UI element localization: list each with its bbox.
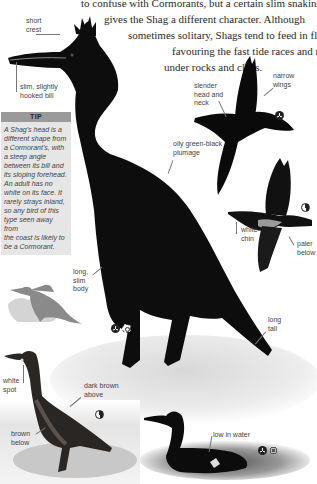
tip-box: TIP A Shag's head is a different shape f…	[1, 112, 71, 255]
label-slender-head: slender head and neck	[194, 82, 223, 108]
label-narrow-wings: narrow wings	[273, 72, 294, 89]
comparison-silhouettes	[8, 285, 82, 324]
winter-icon	[269, 446, 278, 455]
label-long-tail: long tail	[268, 316, 281, 333]
label-plumage: oily green-black plumage	[173, 140, 222, 157]
label-white-spot: white spot	[3, 377, 19, 394]
flight-icon	[111, 324, 120, 333]
label-low-in-water: low in water	[213, 431, 250, 440]
leader-line	[23, 365, 24, 383]
label-long-body: long, slim body	[73, 268, 88, 294]
label-brown-below: brown below	[11, 430, 30, 447]
leader-line	[16, 62, 17, 92]
summer-icon	[122, 324, 131, 333]
leader-line	[36, 34, 60, 35]
label-white-chin: white chin	[241, 226, 257, 243]
label-dark-brown-above: dark brown above	[84, 382, 119, 399]
flight-icon	[258, 446, 267, 455]
label-paler-below: paler below	[297, 240, 315, 257]
leader-line	[236, 222, 237, 234]
tip-title: TIP	[1, 112, 71, 122]
label-bill: slim, slightly hooked bill	[20, 83, 58, 100]
half-year-icon	[301, 203, 310, 212]
label-short-crest: short crest	[26, 17, 42, 34]
half-year-icon	[95, 410, 104, 419]
flight-icon	[275, 111, 284, 120]
tip-body: A Shag's head is a different shape from …	[1, 122, 71, 255]
